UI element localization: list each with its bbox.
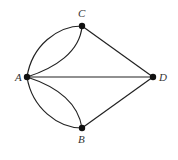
node-label-a: A <box>14 71 22 83</box>
node-b <box>79 125 85 131</box>
edge-c-d <box>82 26 153 77</box>
edge-a-b-inner <box>27 77 82 128</box>
node-c <box>79 23 85 29</box>
node-label-b: B <box>78 133 85 145</box>
edge-a-c-outer <box>27 26 82 77</box>
edge-b-d <box>82 77 153 128</box>
node-d <box>150 74 156 80</box>
node-a <box>24 74 30 80</box>
edge-a-b-outer <box>27 77 82 128</box>
graph-diagram: A C D B <box>0 0 178 160</box>
node-label-c: C <box>78 7 86 19</box>
node-label-d: D <box>158 71 167 83</box>
